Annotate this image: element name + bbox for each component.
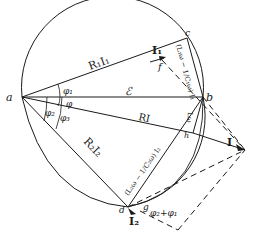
label-E: ℰ [125,85,133,98]
line-a-d-R2I2 [22,97,128,207]
label-I1: I₁ [152,44,162,57]
label-R1I1: R₁I₁ [87,53,112,73]
phasor-circle-diagram: a b c d f h g R₁I₁ I₁ ℰ RI R₂I₂ I₂ I φ₁ … [0,0,255,235]
point-g-label: g [143,202,149,212]
label-RI: RI [138,111,152,124]
label-phi: φ [66,99,73,109]
label-I2: I₂ [129,215,139,228]
label-phi2: φ₂ [45,108,55,118]
label-reactance2: (L₂ω − 1/C₂ω) I₂ [123,145,163,197]
label-phi1: φ₁ [63,86,73,96]
point-b-label: b [206,91,213,104]
label-phi-sum: φ₂+φ₁ [150,208,177,218]
point-d-label: d [119,205,125,215]
label-phi3: φ₃ [60,113,70,123]
point-c-label: c [185,28,190,38]
point-h-label: h [184,131,189,140]
arrowhead-I2 [128,208,136,215]
label-R2I2: R₂I₂ [81,135,105,159]
point-a-label: a [6,91,13,104]
label-reactance-total: Lω [185,112,194,123]
label-I: I [227,136,232,149]
point-f-label: f [157,61,164,72]
label-reactance1: (L₁ω − 1/C₁ω) I₁ [174,43,197,101]
